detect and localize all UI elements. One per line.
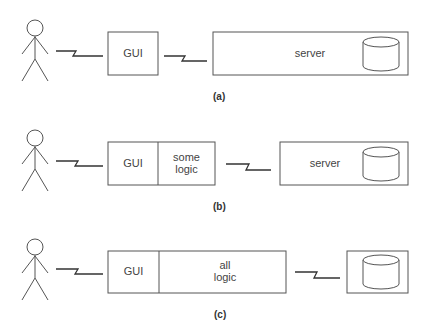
logic-label-line2: logic (200, 271, 250, 283)
database-icon (363, 147, 399, 181)
client-server-diagram (0, 0, 431, 333)
connection-zigzag-icon (56, 51, 103, 56)
connection-zigzag-icon (295, 272, 340, 278)
logic-label-line1: all (200, 259, 250, 271)
connection-zigzag-icon (164, 56, 207, 61)
caption-b: (b) (213, 201, 226, 212)
logic-label: all logic (200, 259, 250, 283)
logic-label: some logic (158, 151, 215, 175)
database-icon (363, 37, 399, 71)
connection-zigzag-icon (226, 164, 271, 170)
panel-a (22, 20, 408, 81)
user-icon (22, 239, 48, 300)
gui-label: GUI (108, 265, 159, 277)
server-label: server (270, 47, 350, 59)
caption-c: (c) (214, 309, 226, 320)
user-icon (22, 130, 48, 191)
database-icon (363, 255, 399, 289)
panel-b (22, 130, 408, 191)
gui-label: GUI (108, 157, 158, 169)
user-icon (22, 20, 48, 81)
connection-zigzag-icon (56, 161, 103, 166)
gui-label: GUI (108, 47, 158, 59)
connection-zigzag-icon (56, 269, 103, 274)
server-label: server (300, 157, 350, 169)
logic-label-line2: logic (158, 163, 215, 175)
logic-label-line1: some (158, 151, 215, 163)
caption-a: (a) (213, 91, 225, 102)
